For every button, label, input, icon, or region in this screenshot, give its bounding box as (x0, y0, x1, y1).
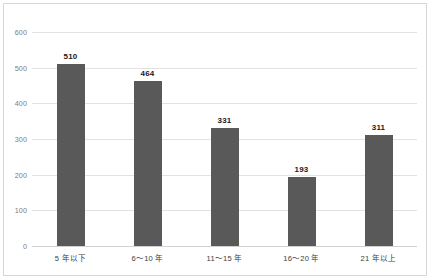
plot-area: 600 500 400 300 200 100 0 510 464 (32, 32, 417, 246)
bar-value-0: 510 (64, 52, 78, 61)
ytick-label-600: 600 (15, 28, 27, 37)
axis-baseline: 0 (32, 246, 417, 247)
bar-value-4: 311 (372, 123, 386, 132)
bar-4[interactable] (365, 135, 393, 246)
xtick-label-1: 6〜10 年 (132, 252, 164, 263)
bar-group-0: 510 (32, 32, 109, 246)
xtick-label-3: 16〜20 年 (283, 252, 319, 263)
ytick-label-500: 500 (15, 63, 27, 72)
chart-frame: 600 500 400 300 200 100 0 510 464 (3, 3, 427, 276)
bar-group-1: 464 (109, 32, 186, 246)
ytick-label-300: 300 (15, 135, 27, 144)
ytick-label-100: 100 (15, 206, 27, 215)
bar-value-3: 193 (295, 165, 309, 174)
bar-group-2: 331 (186, 32, 263, 246)
ytick-label-400: 400 (15, 99, 27, 108)
ytick-label-200: 200 (15, 170, 27, 179)
bar-group-4: 311 (340, 32, 417, 246)
xtick-label-4: 21 年以上 (361, 252, 397, 263)
bar-3[interactable] (288, 177, 316, 246)
bar-1[interactable] (134, 81, 162, 246)
xaxis-labels: 5 年以下 6〜10 年 11〜15 年 16〜20 年 21 年以上 (32, 252, 417, 268)
bar-2[interactable] (211, 128, 239, 246)
bars-layer: 510 464 331 193 311 (32, 32, 417, 246)
bar-group-3: 193 (263, 32, 340, 246)
bar-value-2: 331 (218, 116, 232, 125)
bar-value-1: 464 (141, 69, 155, 78)
bar-0[interactable] (57, 64, 85, 246)
xtick-label-0: 5 年以下 (55, 252, 86, 263)
ytick-label-0: 0 (23, 242, 27, 251)
xtick-label-2: 11〜15 年 (207, 252, 243, 263)
